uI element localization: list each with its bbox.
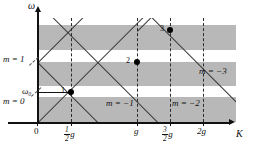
gridline-g [137, 18, 138, 122]
omega-axis-label: ω [28, 0, 35, 11]
omega-axis-arrow [35, 6, 41, 12]
marker-point-2[interactable] [134, 59, 140, 65]
marker-point-3[interactable] [167, 27, 173, 33]
mode-label-m1: m = 1 [3, 55, 25, 64]
tick-label-half-g: 1 2 g [64, 126, 75, 142]
mode-label-m-minus1: m = −1 [106, 99, 134, 108]
tick-label-g-text: g [134, 126, 139, 136]
tick-label-3half-g-unit: g [168, 129, 173, 139]
omega-axis [37, 12, 39, 124]
k-axis-arrow [229, 119, 235, 125]
tick-label-half-g-unit: g [70, 129, 75, 139]
fraction-one-half: 1 2 [64, 126, 70, 142]
k-axis [8, 122, 230, 124]
tick-label-g: g [134, 127, 139, 136]
mode-label-m0: m = 0 [3, 97, 25, 106]
fraction-three-halves: 3 2 [162, 126, 168, 142]
tick-label-0: 0 [34, 127, 39, 136]
fraction-denominator: 2 [162, 134, 168, 143]
fraction-numerator: 3 [162, 126, 168, 134]
dispersion-diagram: ω K 0 1 2 g g 3 2 g 2g ω₀ m = 1 m = 0 m … [0, 0, 253, 151]
tick-label-0-text: 0 [34, 126, 39, 136]
omega-zero-label: ω₀ [22, 87, 31, 96]
marker-point-1[interactable] [68, 89, 74, 95]
fraction-numerator: 1 [64, 126, 70, 134]
fraction-denominator: 2 [64, 134, 70, 143]
marker-label-2: 2 [126, 56, 130, 65]
mode-label-m-minus2: m = −2 [172, 99, 200, 108]
mode-label-m-minus3: m = −3 [199, 67, 227, 76]
omega-zero-text: ω₀ [22, 86, 31, 96]
k-axis-label: K [236, 128, 243, 139]
omega-zero-level [38, 92, 72, 93]
tick-label-3half-g: 3 2 g [162, 126, 173, 142]
tick-label-2g: 2g [197, 127, 206, 136]
marker-label-1: 1 [61, 86, 65, 95]
tick-label-2g-text: 2g [197, 126, 206, 136]
marker-label-3: 3 [160, 24, 164, 33]
gridline-half-g [71, 18, 72, 122]
gridline-3half-g [170, 18, 171, 122]
